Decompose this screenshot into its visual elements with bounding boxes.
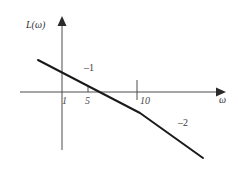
slope-annotation-second: –2 [178,118,188,128]
x-tick-label-10: 10 [140,96,150,106]
x-tick-label-1: 1 [62,96,67,106]
x-tick-label-5: 5 [85,96,90,106]
bode-plot-figure: L(ω) ω 1 5 10 –1 –2 [0,0,238,184]
y-axis-arrow-icon [58,16,67,26]
x-axis-label: ω [219,95,226,105]
slope-annotation-first: –1 [84,63,94,73]
y-axis-label: L(ω) [26,20,45,30]
magnitude-asymptote-curve [38,60,203,158]
